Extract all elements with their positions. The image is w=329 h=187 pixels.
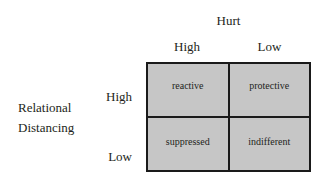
matrix-cell-low-low: indifferent (229, 117, 310, 170)
row-axis-title-line-2: Distancing (18, 121, 74, 134)
column-axis-title: Hurt (146, 14, 311, 27)
row-header-low: Low (80, 150, 132, 163)
row-axis-title-line-1: Relational (18, 101, 71, 114)
column-header-low: Low (228, 40, 311, 53)
matrix-cell-high-low: protective (229, 64, 310, 117)
matrix-cell-label: indifferent (248, 137, 290, 147)
row-header-high: High (80, 90, 132, 103)
matrix-cell-label: reactive (172, 81, 204, 91)
matrix-cell-low-high: suppressed (148, 117, 229, 170)
matrix-cell-high-high: reactive (148, 64, 229, 117)
matrix-cell-label: suppressed (166, 137, 210, 147)
matrix-cell-label: protective (249, 81, 289, 91)
matrix-grid: reactive protective suppressed indiffere… (146, 62, 311, 172)
column-header-high: High (146, 40, 228, 53)
relational-distancing-hurt-matrix: Hurt High Low Relational Distancing High… (0, 0, 329, 187)
